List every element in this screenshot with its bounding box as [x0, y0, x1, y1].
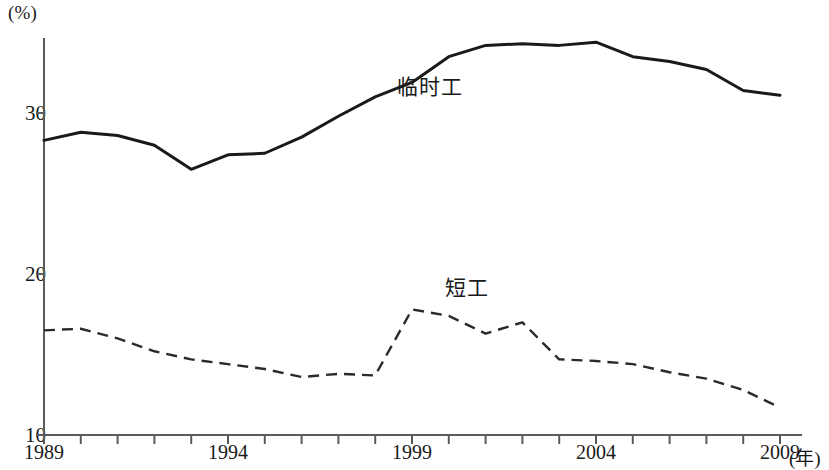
series-annotation-linshigong: 临时工 [397, 70, 463, 100]
x-axis-ticks [44, 435, 780, 444]
y-axis-ticks [36, 113, 44, 435]
series-line-diangong [44, 309, 780, 407]
series-line-linshigong [44, 42, 780, 169]
series-annotation-diangong: 短工 [445, 271, 489, 301]
